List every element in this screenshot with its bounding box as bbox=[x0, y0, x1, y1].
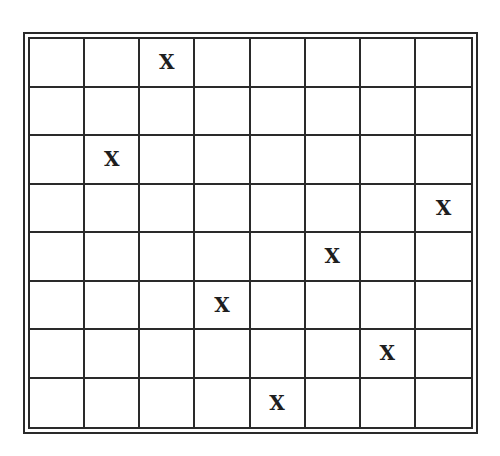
grid-cell-r3-c0 bbox=[30, 185, 85, 234]
grid-cell-r1-c0 bbox=[30, 88, 85, 137]
grid-cell-r1-c3 bbox=[195, 88, 250, 137]
grid-cell-r2-c1: X bbox=[85, 136, 140, 185]
grid-cell-r5-c0 bbox=[30, 282, 85, 331]
grid-outer-frame: XXXXXXX bbox=[23, 32, 478, 434]
grid-cell-r2-c4 bbox=[251, 136, 306, 185]
cell-mark: X bbox=[380, 341, 396, 365]
grid-cell-r1-c1 bbox=[85, 88, 140, 137]
grid-cell-r5-c4 bbox=[251, 282, 306, 331]
cell-mark: X bbox=[324, 244, 340, 268]
grid-cell-r4-c2 bbox=[140, 233, 195, 282]
grid-cell-r3-c2 bbox=[140, 185, 195, 234]
cell-mark: X bbox=[104, 147, 120, 171]
grid-cell-r7-c2 bbox=[140, 379, 195, 428]
grid-cell-r3-c1 bbox=[85, 185, 140, 234]
grid-cell-r3-c7: X bbox=[416, 185, 471, 234]
grid-cell-r6-c3 bbox=[195, 330, 250, 379]
grid-cell-r0-c2: X bbox=[140, 39, 195, 88]
grid-cell-r6-c2 bbox=[140, 330, 195, 379]
grid-cell-r1-c2 bbox=[140, 88, 195, 137]
grid-cell-r2-c5 bbox=[306, 136, 361, 185]
grid-cell-r7-c5 bbox=[306, 379, 361, 428]
grid-cell-r4-c5: X bbox=[306, 233, 361, 282]
grid-cell-r6-c1 bbox=[85, 330, 140, 379]
grid-cell-r2-c2 bbox=[140, 136, 195, 185]
grid-cell-r7-c4: X bbox=[251, 379, 306, 428]
grid-cell-r1-c7 bbox=[416, 88, 471, 137]
grid-cell-r5-c2 bbox=[140, 282, 195, 331]
grid-cell-r5-c6 bbox=[361, 282, 416, 331]
grid-cell-r2-c0 bbox=[30, 136, 85, 185]
grid-cell-r7-c0 bbox=[30, 379, 85, 428]
grid-board: XXXXXXX bbox=[30, 39, 471, 427]
grid-cell-r1-c6 bbox=[361, 88, 416, 137]
grid-cell-r0-c6 bbox=[361, 39, 416, 88]
grid-cell-r3-c4 bbox=[251, 185, 306, 234]
grid-cell-r6-c7 bbox=[416, 330, 471, 379]
grid-cell-r3-c5 bbox=[306, 185, 361, 234]
grid-cell-r0-c4 bbox=[251, 39, 306, 88]
grid-cell-r0-c3 bbox=[195, 39, 250, 88]
grid-cell-r6-c5 bbox=[306, 330, 361, 379]
grid-cell-r6-c4 bbox=[251, 330, 306, 379]
grid-cell-r7-c3 bbox=[195, 379, 250, 428]
grid-cell-r5-c7 bbox=[416, 282, 471, 331]
grid-cell-r2-c6 bbox=[361, 136, 416, 185]
grid-cell-r5-c1 bbox=[85, 282, 140, 331]
grid-cell-r4-c4 bbox=[251, 233, 306, 282]
grid-cell-r2-c3 bbox=[195, 136, 250, 185]
grid-cell-r0-c5 bbox=[306, 39, 361, 88]
grid-cell-r7-c6 bbox=[361, 379, 416, 428]
grid-cell-r4-c6 bbox=[361, 233, 416, 282]
grid-cell-r6-c0 bbox=[30, 330, 85, 379]
grid-cell-r7-c1 bbox=[85, 379, 140, 428]
grid-cell-r4-c0 bbox=[30, 233, 85, 282]
grid-cell-r5-c5 bbox=[306, 282, 361, 331]
grid-cell-r5-c3: X bbox=[195, 282, 250, 331]
grid-cell-r4-c7 bbox=[416, 233, 471, 282]
grid-cell-r1-c4 bbox=[251, 88, 306, 137]
grid-cell-r6-c6: X bbox=[361, 330, 416, 379]
cell-mark: X bbox=[436, 196, 452, 220]
grid-cell-r4-c1 bbox=[85, 233, 140, 282]
grid-cell-r1-c5 bbox=[306, 88, 361, 137]
cell-mark: X bbox=[214, 293, 230, 317]
cell-mark: X bbox=[159, 50, 175, 74]
grid-cell-r4-c3 bbox=[195, 233, 250, 282]
cell-mark: X bbox=[269, 391, 285, 415]
grid-inner-frame: XXXXXXX bbox=[28, 37, 473, 429]
grid-cell-r0-c7 bbox=[416, 39, 471, 88]
grid-cell-r2-c7 bbox=[416, 136, 471, 185]
grid-cell-r0-c1 bbox=[85, 39, 140, 88]
grid-cell-r7-c7 bbox=[416, 379, 471, 428]
grid-cell-r3-c3 bbox=[195, 185, 250, 234]
grid-cell-r0-c0 bbox=[30, 39, 85, 88]
grid-cell-r3-c6 bbox=[361, 185, 416, 234]
